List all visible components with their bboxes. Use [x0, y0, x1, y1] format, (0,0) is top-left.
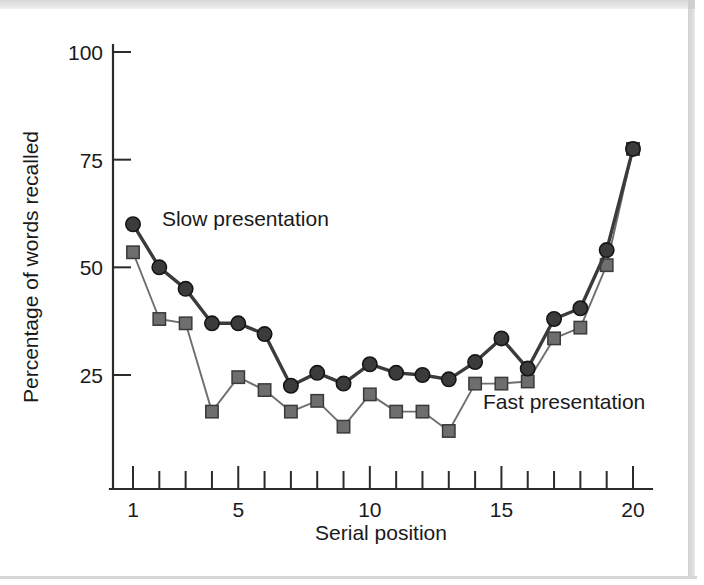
- x-axis-tick-labels: 15101520: [127, 498, 645, 521]
- data-point-square: [574, 321, 586, 333]
- data-point-circle: [494, 331, 508, 345]
- data-point-square: [311, 395, 323, 407]
- y-axis-ticks: [113, 52, 131, 375]
- data-point-square: [548, 332, 560, 344]
- data-point-circle: [257, 327, 271, 341]
- data-point-circle: [626, 142, 640, 156]
- data-point-circle: [415, 368, 429, 382]
- data-point-square: [179, 317, 191, 329]
- x-tick-label: 10: [358, 498, 381, 521]
- y-tick-label: 25: [80, 364, 103, 387]
- y-tick-label: 100: [68, 41, 103, 64]
- x-tick-label: 15: [490, 498, 513, 521]
- y-tick-label: 50: [80, 256, 103, 279]
- data-point-square: [232, 371, 244, 383]
- series-slow-presentation: [126, 142, 640, 393]
- data-point-circle: [126, 217, 140, 231]
- data-point-square: [390, 405, 402, 417]
- data-point-square: [153, 313, 165, 325]
- x-tick-label: 5: [232, 498, 244, 521]
- data-point-circle: [521, 361, 535, 375]
- data-point-square: [258, 384, 270, 396]
- data-point-circle: [336, 376, 350, 390]
- data-point-circle: [389, 366, 403, 380]
- data-point-square: [206, 405, 218, 417]
- x-tick-label: 20: [621, 498, 644, 521]
- data-point-circle: [573, 301, 587, 315]
- data-point-square: [285, 405, 297, 417]
- data-point-square: [364, 388, 376, 400]
- x-tick-label: 1: [127, 498, 139, 521]
- data-point-circle: [205, 316, 219, 330]
- series-label-slow-presentation: Slow presentation: [162, 207, 329, 230]
- series-line: [133, 149, 633, 431]
- series-line: [133, 149, 633, 386]
- data-point-square: [337, 420, 349, 432]
- data-point-square: [469, 377, 481, 389]
- data-point-square: [416, 405, 428, 417]
- data-point-square: [522, 375, 534, 387]
- axes: [110, 45, 652, 489]
- x-axis-title: Serial position: [315, 521, 447, 544]
- data-point-circle: [468, 355, 482, 369]
- y-axis-tick-labels: 255075100: [68, 41, 103, 387]
- data-point-circle: [599, 243, 613, 257]
- data-point-square: [495, 377, 507, 389]
- data-point-circle: [231, 316, 245, 330]
- chart-svg: 255075100 15101520 Slow presentation Fas…: [0, 0, 704, 585]
- data-point-circle: [547, 312, 561, 326]
- data-point-circle: [284, 379, 298, 393]
- data-point-circle: [442, 372, 456, 386]
- y-tick-label: 75: [80, 149, 103, 172]
- figure-page: 255075100 15101520 Slow presentation Fas…: [0, 0, 704, 585]
- data-point-square: [443, 425, 455, 437]
- serial-position-chart: 255075100 15101520 Slow presentation Fas…: [0, 0, 704, 585]
- data-point-square: [127, 246, 139, 258]
- x-axis-ticks: [133, 466, 633, 489]
- data-point-circle: [152, 260, 166, 274]
- data-point-circle: [310, 366, 324, 380]
- series-label-fast-presentation: Fast presentation: [483, 390, 645, 413]
- y-axis-title: Percentage of words recalled: [19, 131, 42, 403]
- data-point-circle: [178, 282, 192, 296]
- data-point-circle: [363, 357, 377, 371]
